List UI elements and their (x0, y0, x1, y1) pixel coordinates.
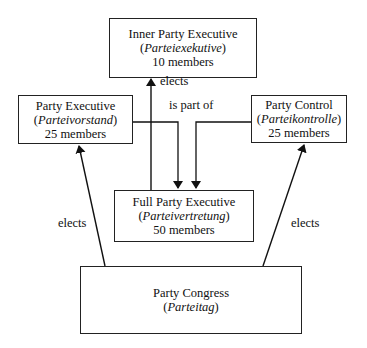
edge-control-to-full (196, 122, 251, 188)
node-party-congress: Party Congress (Parteitag) (80, 266, 302, 334)
node-german-name: (Parteikontrolle) (257, 112, 341, 126)
node-members: 25 members (268, 126, 329, 140)
edge-exec-to-full (132, 122, 178, 188)
node-party-executive: Party Executive (Parteivorstand) 25 memb… (18, 95, 133, 144)
edge-label-elects-right: elects (291, 216, 319, 230)
node-members: 25 members (45, 127, 106, 141)
edge-congress-to-control (263, 145, 304, 266)
node-german-name: (Parteitag) (163, 300, 219, 314)
node-german-name: (Parteivorstand) (34, 113, 117, 127)
node-german-name: (Parteivertretung) (138, 209, 229, 223)
node-title: Party Congress (153, 286, 229, 300)
edge-label-is-part-of: is part of (169, 98, 213, 112)
node-title: Party Control (265, 98, 333, 112)
node-inner-party-executive: Inner Party Executive (Parteiexekutive) … (109, 18, 257, 78)
node-title: Full Party Executive (133, 195, 236, 209)
node-title: Inner Party Executive (129, 27, 238, 41)
edge-label-elects-left: elects (58, 216, 86, 230)
edge-congress-to-exec (79, 146, 105, 266)
node-title: Party Executive (36, 99, 116, 113)
node-full-party-executive: Full Party Executive (Parteivertretung) … (114, 190, 254, 242)
node-members: 50 members (153, 223, 214, 237)
node-members: 10 members (152, 55, 213, 69)
node-german-name: (Parteiexekutive) (140, 41, 226, 55)
edge-label-elects-top: elects (160, 74, 188, 88)
node-party-control: Party Control (Parteikontrolle) 25 membe… (251, 95, 347, 143)
